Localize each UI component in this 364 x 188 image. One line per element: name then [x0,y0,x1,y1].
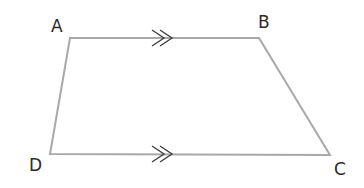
vertex-label-c: C [334,159,346,179]
trapezium-diagram: A B C D [0,0,364,188]
vertex-label-d: D [29,155,42,175]
trapezium-outline [50,38,330,155]
vertex-label-a: A [51,16,63,36]
vertex-label-b: B [258,12,270,32]
